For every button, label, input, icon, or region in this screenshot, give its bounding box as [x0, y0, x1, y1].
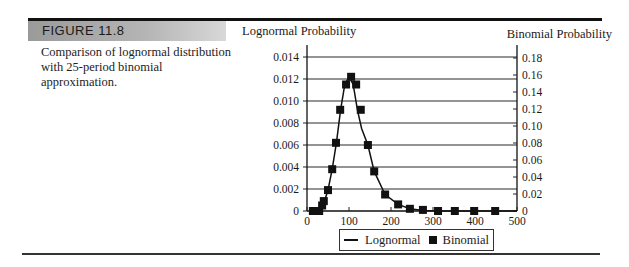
left-tick-label: 0.010 — [273, 95, 299, 107]
square-marker-icon — [429, 236, 437, 244]
left-tick-label: 0 — [293, 205, 299, 217]
left-tick-label: 0.004 — [273, 161, 299, 173]
legend-lognormal-label: Lognormal — [365, 233, 421, 248]
right-tick-label: 0.08 — [522, 137, 542, 149]
chart: Lognormal ProbabilityBinomial Probabilit… — [0, 0, 629, 267]
bottom-rule — [22, 253, 600, 255]
left-tick-label: 0.006 — [273, 139, 299, 151]
left-tick-label: 0.002 — [273, 183, 299, 195]
binomial-marker — [370, 167, 378, 175]
binomial-marker — [381, 191, 389, 199]
right-tick-label: 0.04 — [522, 171, 542, 183]
binomial-marker — [347, 73, 355, 81]
binomial-marker — [364, 141, 372, 149]
lognormal-line — [311, 77, 517, 211]
binomial-marker — [434, 207, 442, 215]
left-axis-title: Lognormal Probability — [242, 24, 357, 38]
x-tick-label: 400 — [466, 215, 484, 227]
line-swatch-icon — [344, 239, 358, 241]
left-tick-label: 0.012 — [273, 73, 299, 85]
binomial-marker — [451, 207, 459, 215]
binomial-marker — [328, 165, 336, 173]
legend-binomial-label: Binomial — [443, 233, 490, 248]
right-tick-label: 0.06 — [522, 154, 542, 166]
chart-legend: Lognormal Binomial — [339, 229, 494, 251]
x-tick-label: 500 — [508, 215, 526, 227]
x-tick-label: 0 — [304, 215, 310, 227]
binomial-marker — [491, 207, 499, 215]
right-axis-title: Binomial Probability — [507, 27, 613, 41]
left-tick-label: 0.008 — [273, 117, 299, 129]
right-tick-label: 0.12 — [522, 103, 542, 115]
right-tick-label: 0.18 — [522, 52, 542, 64]
binomial-marker — [332, 139, 340, 147]
binomial-marker — [352, 81, 360, 89]
left-tick-label: 0.014 — [273, 51, 299, 63]
right-tick-label: 0.10 — [522, 120, 542, 132]
right-tick-label: 0.14 — [522, 86, 542, 98]
binomial-marker — [419, 206, 427, 214]
binomial-marker — [406, 205, 414, 213]
binomial-marker — [342, 81, 350, 89]
right-tick-label: 0.16 — [522, 69, 542, 81]
binomial-marker — [336, 106, 344, 114]
binomial-marker — [320, 197, 328, 205]
binomial-marker — [357, 106, 365, 114]
x-tick-label: 200 — [382, 215, 400, 227]
x-tick-label: 100 — [340, 215, 358, 227]
binomial-marker — [394, 200, 402, 208]
binomial-marker — [470, 207, 478, 215]
binomial-marker — [324, 186, 332, 194]
x-tick-label: 300 — [424, 215, 442, 227]
right-tick-label: 0.02 — [522, 188, 542, 200]
